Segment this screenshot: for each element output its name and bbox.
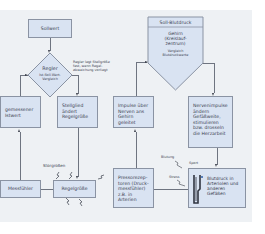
setpoint-box: Sollwert bbox=[28, 19, 72, 38]
impulses-box: Impulse über Nerven ans Gehirn geleitet bbox=[113, 96, 154, 128]
controller-subtitle: Ist-Soll-Wert-Vergleich bbox=[36, 73, 64, 81]
pressoreceptors-label: Pressorezep-toren (Druck-messfühler) z.B… bbox=[118, 175, 149, 202]
connector-nerves-bloodpressure bbox=[217, 148, 218, 165]
controller-title: Regler bbox=[33, 66, 67, 71]
connector-brain-nerves-h bbox=[203, 63, 214, 64]
controller-note: Regler legt Stellgröße fest, wenn Regel-… bbox=[73, 60, 113, 72]
nerve-effect-label: Nervenimpulse ändern Gefäßweite, stimuli… bbox=[193, 103, 228, 136]
connector-controller-actuator-v bbox=[78, 75, 79, 94]
measured-value-label: gemessener Istwert bbox=[5, 107, 33, 118]
connector-sensor-istwert bbox=[20, 132, 21, 180]
actuator-label: Stellglied ändert Regelgröße bbox=[62, 103, 88, 119]
disturbance-arrows-icon bbox=[50, 170, 110, 206]
connector-istwert-controller-v bbox=[20, 75, 21, 96]
connector-impulses-brain-v bbox=[136, 62, 137, 96]
arrow-up-icon bbox=[18, 129, 20, 132]
nerve-effect-box: Nervenimpulse ändern Gefäßweite, stimuli… bbox=[188, 96, 233, 148]
disturbance-arrows-right-icon bbox=[175, 158, 195, 188]
connector-receptors-bloodpressure bbox=[154, 189, 188, 190]
arrow-up-icon bbox=[134, 129, 136, 132]
connector-brain-nerves-v bbox=[214, 63, 215, 93]
impulses-label: Impulse über Nerven ans Gehirn geleitet bbox=[118, 103, 148, 125]
brain-center-label: Gehirn (Kreislauf-zentrum) bbox=[158, 31, 193, 46]
pressoreceptors-box: Pressorezep-toren (Druck-messfühler) z.B… bbox=[113, 168, 154, 208]
target-blood-pressure-title: Soll-Blutdruck bbox=[148, 20, 203, 25]
disturbance-bleeding: Blutung bbox=[161, 155, 174, 159]
arrow-down-icon bbox=[215, 164, 217, 167]
blood-pressure-label: Blutdruck in Arteriolen und anderen Gefä… bbox=[207, 176, 245, 196]
blood-pressure-box: Blutdruck in Arteriolen und anderen Gefä… bbox=[188, 168, 246, 208]
measured-value-box: gemessener Istwert bbox=[0, 96, 41, 128]
arrow-right-icon bbox=[25, 74, 28, 76]
connector-receptors-impulses bbox=[136, 132, 137, 168]
arrow-right-icon bbox=[145, 61, 148, 63]
disturbances-label: Störgrößen bbox=[43, 163, 65, 168]
setpoint-label: Sollwert bbox=[41, 26, 60, 32]
sensor-label: Messfühler bbox=[8, 186, 33, 192]
actuator-box: Stellglied ändert Regelgröße bbox=[57, 96, 98, 128]
compare-label: Vergleich Blutdruckwerte bbox=[160, 49, 191, 57]
sensor-box: Messfühler bbox=[0, 180, 41, 198]
